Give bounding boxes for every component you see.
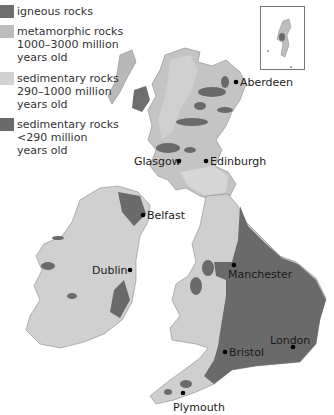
legend-label: years old <box>17 98 119 111</box>
city-dot-plymouth <box>181 391 186 396</box>
city-label-edinburgh: Edinburgh <box>210 155 266 168</box>
city-label-belfast: Belfast <box>147 209 186 222</box>
legend-label: 1000–3000 million <box>17 38 123 51</box>
city-dot-manchester <box>232 263 237 268</box>
shetland-islands <box>261 7 304 69</box>
legend-label: years old <box>17 144 119 157</box>
city-label-manchester: Manchester <box>228 268 293 281</box>
legend-swatch-sedimentary-old <box>0 72 14 85</box>
legend-label: metamorphic rocks <box>17 25 123 38</box>
legend-item-sedimentary-young: sedimentary rocks <290 million years old <box>0 118 119 157</box>
legend-label: sedimentary rocks <box>17 118 119 131</box>
legend-item-metamorphic: metamorphic rocks 1000–3000 million year… <box>0 25 123 64</box>
city-dot-aberdeen <box>234 80 239 85</box>
city-label-aberdeen: Aberdeen <box>240 76 293 89</box>
city-dot-belfast <box>141 213 146 218</box>
legend-label: 290–1000 million <box>17 85 119 98</box>
legend-label: igneous rocks <box>17 5 93 18</box>
city-label-london: London <box>270 334 310 347</box>
city-dot-edinburgh <box>204 159 209 164</box>
legend-label: years old <box>17 51 123 64</box>
legend-swatch-sedimentary-young <box>0 118 14 131</box>
city-dot-bristol <box>223 350 228 355</box>
city-dot-dublin <box>128 268 133 273</box>
city-label-bristol: Bristol <box>229 346 264 359</box>
legend-label: <290 million <box>17 131 119 144</box>
legend-label: sedimentary rocks <box>17 72 119 85</box>
city-label-dublin: Dublin <box>92 264 128 277</box>
legend-item-igneous: igneous rocks <box>0 5 93 18</box>
legend-swatch-metamorphic <box>0 25 14 38</box>
legend-item-sedimentary-old: sedimentary rocks 290–1000 million years… <box>0 72 119 111</box>
legend-swatch-igneous <box>0 5 14 18</box>
city-label-plymouth: Plymouth <box>173 401 225 414</box>
skye <box>132 86 150 112</box>
shetland-inset <box>260 6 305 70</box>
city-label-glasgow: Glasgow <box>134 155 181 168</box>
